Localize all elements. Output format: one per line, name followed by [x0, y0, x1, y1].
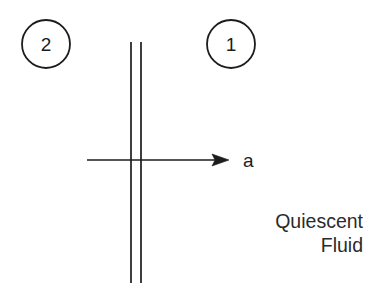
region-2-label: 2 [41, 34, 52, 55]
quiescent-fluid-annotation: Quiescent Fluid [275, 210, 363, 256]
annotation-line-2: Fluid [321, 234, 363, 256]
region-marker-2: 2 [22, 20, 70, 68]
annotation-line-1: Quiescent [275, 210, 363, 232]
diagram-canvas: 2 1 a Quiescent Fluid [0, 0, 386, 288]
region-marker-1: 1 [207, 20, 255, 68]
acceleration-label: a [243, 150, 254, 171]
acceleration-arrow: a [87, 150, 254, 171]
interface-double-line [131, 42, 141, 283]
diagram-svg: 2 1 a Quiescent Fluid [0, 0, 386, 288]
region-1-label: 1 [226, 34, 237, 55]
